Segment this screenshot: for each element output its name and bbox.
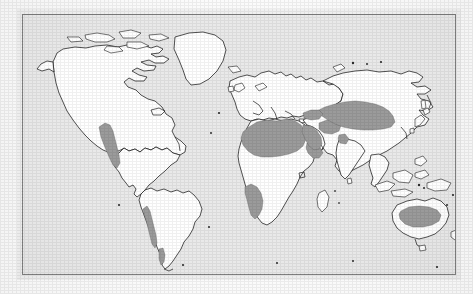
comoros-speck <box>334 190 336 192</box>
figure-page: World map showing the distribution of de… <box>0 0 473 294</box>
canaries-speck <box>210 132 212 134</box>
map-frame <box>22 14 456 275</box>
southern-ocean-speck-1 <box>276 262 278 264</box>
mascarene-speck <box>338 202 340 204</box>
arctic-speck-2 <box>366 63 368 65</box>
british-isles-ireland <box>228 86 234 92</box>
south-atlantic-speck <box>208 226 210 228</box>
subantarctic-speck <box>436 266 438 268</box>
lesser-sunda-speck-1 <box>418 184 420 186</box>
falklands-speck <box>182 264 184 266</box>
tasmania-island <box>419 245 426 251</box>
sri-lanka <box>347 178 352 184</box>
arctic-speck-1 <box>352 62 354 64</box>
japan-kyushu <box>410 128 414 133</box>
lesser-sunda-speck-2 <box>423 187 425 189</box>
world-map-svg <box>23 15 455 274</box>
pacific-speck-2 <box>446 204 448 206</box>
southern-ocean-speck-2 <box>352 260 354 262</box>
galapagos-speck <box>118 204 120 206</box>
sakhalin-island <box>421 100 426 109</box>
arctic-speck-3 <box>380 61 382 63</box>
pacific-speck-1 <box>452 194 454 196</box>
azores-speck <box>218 112 220 114</box>
